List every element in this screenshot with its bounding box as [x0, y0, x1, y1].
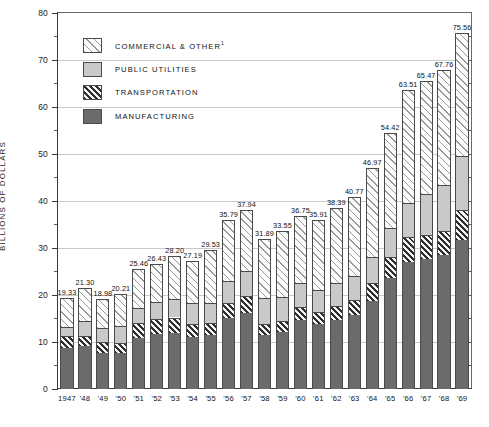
- bar-value-label: 63.51: [399, 80, 418, 89]
- bar-segment-manufacturing: [61, 348, 72, 389]
- bar-value-label: 21.30: [76, 278, 95, 287]
- legend-item-label: PUBLIC UTILITIES: [115, 65, 197, 74]
- bar-segment-manufacturing: [421, 259, 432, 388]
- bar-segment-transportation: [133, 323, 144, 338]
- bar-segment-commercial_other: [331, 208, 342, 283]
- bar-segment-manufacturing: [313, 324, 324, 388]
- legend-item-label: TRANSPORTATION: [115, 88, 198, 97]
- plot-top-border: [57, 12, 472, 13]
- bar-segment-public_utilities: [367, 257, 378, 283]
- bar-segment-manufacturing: [151, 334, 162, 389]
- bar-segment-commercial_other: [349, 197, 360, 276]
- bar-value-label: 40.77: [345, 187, 364, 196]
- bar-segment-manufacturing: [349, 315, 360, 389]
- bar-segment-commercial_other: [133, 269, 144, 308]
- legend-swatch-icon: [83, 38, 102, 53]
- bar-60[interactable]: [294, 216, 307, 389]
- bar-50[interactable]: [114, 294, 127, 389]
- bar-value-label: 20.21: [111, 284, 130, 293]
- bar-61[interactable]: [312, 220, 325, 389]
- bar-segment-manufacturing: [259, 335, 270, 389]
- x-axis-label: '52: [152, 394, 163, 403]
- bar-48[interactable]: [78, 288, 91, 388]
- bar-1947[interactable]: [60, 298, 73, 389]
- bar-value-label: 35.79: [219, 210, 238, 219]
- x-axis-label: 1947: [58, 394, 76, 403]
- x-axis-label: '53: [169, 394, 180, 403]
- bar-segment-manufacturing: [456, 240, 467, 389]
- x-axis-label: '58: [259, 394, 270, 403]
- x-axis-label: '59: [277, 394, 288, 403]
- bar-value-label: 38.39: [327, 198, 346, 207]
- bar-55[interactable]: [204, 250, 217, 389]
- bar-segment-commercial_other: [277, 231, 288, 297]
- bar-segment-transportation: [79, 336, 90, 346]
- bar-value-label: 31.89: [255, 229, 274, 238]
- bar-segment-manufacturing: [438, 255, 449, 388]
- legend-item-transportation[interactable]: TRANSPORTATION: [83, 83, 224, 102]
- bar-56[interactable]: [222, 220, 235, 388]
- bar-segment-public_utilities: [151, 302, 162, 319]
- bar-segment-transportation: [61, 336, 72, 347]
- legend-item-label: COMMERCIAL & OTHER1: [115, 40, 224, 51]
- y-axis-title: BILLIONS OF DOLLARS: [0, 141, 7, 251]
- bar-segment-commercial_other: [241, 210, 252, 271]
- bar-64[interactable]: [366, 168, 379, 389]
- y-axis-label-60: 60: [24, 102, 48, 112]
- bar-segment-transportation: [456, 210, 467, 240]
- bar-segment-public_utilities: [115, 326, 126, 343]
- bar-segment-manufacturing: [277, 332, 288, 389]
- bar-value-label: 28.20: [165, 246, 184, 255]
- x-axis-label: '56: [223, 394, 234, 403]
- bar-53[interactable]: [168, 256, 181, 389]
- bar-57[interactable]: [240, 210, 253, 388]
- bar-segment-public_utilities: [223, 281, 234, 302]
- bar-67[interactable]: [420, 81, 433, 389]
- bar-value-label: 29.53: [201, 240, 220, 249]
- legend-swatch-icon: [83, 109, 102, 124]
- bar-59[interactable]: [276, 231, 289, 389]
- bar-segment-public_utilities: [421, 194, 432, 235]
- bar-segment-manufacturing: [205, 335, 216, 389]
- bar-68[interactable]: [437, 70, 450, 388]
- bar-segment-transportation: [403, 237, 414, 262]
- legend-item-public-utilities[interactable]: PUBLIC UTILITIES: [83, 60, 224, 79]
- bar-52[interactable]: [150, 264, 163, 388]
- bar-segment-public_utilities: [79, 321, 90, 336]
- bar-segment-transportation: [259, 324, 270, 335]
- bar-69[interactable]: [455, 33, 468, 388]
- bar-segment-public_utilities: [61, 327, 72, 336]
- x-axis-label: '68: [439, 394, 450, 403]
- bar-62[interactable]: [330, 208, 343, 388]
- bar-51[interactable]: [132, 269, 145, 389]
- bar-value-label: 67.76: [435, 60, 454, 69]
- legend-item-commercial-other[interactable]: COMMERCIAL & OTHER1: [83, 36, 224, 55]
- y-axis-label-80: 80: [24, 8, 48, 18]
- bar-value-label: 75.56: [453, 23, 472, 32]
- bar-63[interactable]: [348, 197, 361, 389]
- bar-58[interactable]: [258, 239, 271, 389]
- y-axis-label-10: 10: [24, 337, 48, 347]
- bar-segment-public_utilities: [295, 283, 306, 306]
- bar-49[interactable]: [96, 299, 109, 388]
- bar-value-label: 65.47: [417, 71, 436, 80]
- x-axis-label: '65: [385, 394, 396, 403]
- chart-root: 01020304050607080 BILLIONS OF DOLLARS 19…: [0, 0, 489, 427]
- bar-65[interactable]: [384, 133, 397, 389]
- x-axis-label: '57: [241, 394, 252, 403]
- bar-segment-public_utilities: [349, 276, 360, 300]
- bar-segment-commercial_other: [295, 216, 306, 284]
- bar-segment-transportation: [295, 307, 306, 321]
- x-axis-label: '48: [80, 394, 91, 403]
- bar-value-label: 25.46: [129, 259, 148, 268]
- bar-segment-manufacturing: [79, 346, 90, 389]
- bar-segment-transportation: [187, 324, 198, 336]
- bar-segment-public_utilities: [403, 203, 414, 237]
- bar-segment-transportation: [97, 342, 108, 353]
- bar-segment-manufacturing: [187, 337, 198, 389]
- bar-segment-public_utilities: [385, 228, 396, 257]
- bar-54[interactable]: [186, 261, 199, 389]
- legend-item-manufacturing[interactable]: MANUFACTURING: [83, 107, 224, 126]
- legend-swatch-icon: [83, 62, 102, 77]
- bar-66[interactable]: [402, 90, 415, 388]
